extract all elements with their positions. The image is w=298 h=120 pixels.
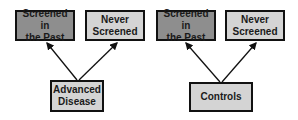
left-screened-in-past-box: Screened in the Past	[15, 10, 75, 41]
arrow-controls-to-never	[222, 43, 256, 82]
left-never-screened-box: Never Screened	[85, 10, 145, 41]
arrow-advanced-to-never	[79, 43, 117, 80]
diagram-canvas: Screened in the Past Never Screened Adva…	[0, 0, 298, 120]
arrow-advanced-to-screened	[47, 43, 77, 80]
right-screened-in-past-box: Screened in the Past	[156, 10, 216, 41]
right-never-screened-box: Never Screened	[225, 10, 285, 41]
arrow-controls-to-screened	[186, 43, 220, 82]
advanced-disease-box: Advanced Disease	[50, 80, 104, 112]
controls-box: Controls	[189, 82, 253, 112]
